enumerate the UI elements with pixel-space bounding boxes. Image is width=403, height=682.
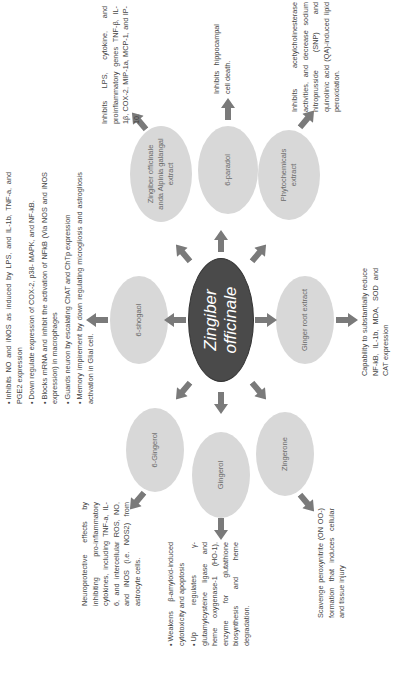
arrow-to-phytochemicals-icon bbox=[247, 240, 272, 266]
center-label-line2: officinale bbox=[221, 286, 241, 353]
effect-text-6-gingerol: Neuroprotective effects by inhibiting pr… bbox=[80, 502, 143, 606]
node-6-paradol: 6-paradol bbox=[198, 126, 258, 214]
arrow-paradol-effect-icon bbox=[221, 98, 235, 120]
arrow-to-zingerone-icon bbox=[247, 378, 272, 404]
arrow-to-ginger-root-icon bbox=[255, 313, 277, 327]
node-label: Ginger root extract bbox=[300, 289, 310, 351]
effect-text: Scavenge peroxynitrite (ON OO-) formatio… bbox=[316, 508, 346, 618]
effect-text: Inhibits LPS, cytokine, and proinflammat… bbox=[100, 6, 141, 124]
effect-text-alpinia: Inhibits LPS, cytokine, and proinflammat… bbox=[100, 6, 142, 124]
node-phytochemicals-extract: Phytochemicals extract bbox=[258, 130, 320, 220]
effect-text: Inhibits acetylcholinesterase activities… bbox=[290, 2, 341, 112]
effect-text-6-shogaol: Inhibits NO and iNOS as induced by LPS, … bbox=[4, 172, 99, 404]
effect-text-6-paradol: Inhibits hippocampal cell death. bbox=[212, 24, 233, 94]
node-label: Zingerone bbox=[280, 437, 290, 471]
shogaol-effect-item: Guards neuron by escalating ChAT and ChT… bbox=[63, 172, 74, 404]
node-label: Zingiber officinale anda Alpinia galanga… bbox=[146, 136, 176, 212]
shogaol-effect-item: Blocks mRNA and inhibit the activation o… bbox=[40, 172, 61, 404]
arrow-to-gingerol-icon bbox=[214, 392, 228, 414]
center-node-zingiber-officinale: Zingiber officinale bbox=[188, 258, 254, 382]
arrow-to-6-gingerol-icon bbox=[171, 378, 196, 404]
node-zingerone: Zingerone bbox=[256, 412, 314, 496]
node-gingerol: Gingerol bbox=[192, 432, 250, 518]
shogaol-effect-item: Memory impirement by down regulating mic… bbox=[75, 172, 96, 404]
diagram-canvas: Zingiber officinale 6-paradol Zingiber o… bbox=[0, 0, 403, 682]
arrow-to-6-paradol-icon bbox=[214, 230, 228, 252]
arrow-to-6-shogaol-icon bbox=[164, 313, 186, 327]
node-label: Gingerol bbox=[216, 461, 226, 489]
node-label: 6-shogaol bbox=[134, 304, 144, 337]
arrow-gingerol-effect-icon bbox=[214, 518, 228, 540]
shogaol-effect-item: Inhibits NO and iNOS as induced by LPS, … bbox=[4, 172, 25, 404]
effect-text-ginger-root: Capability to substantially reduce NF-kB… bbox=[360, 268, 392, 376]
shogaol-effect-item: Down regulate expression of COX-2, p38- … bbox=[27, 172, 38, 404]
node-alpinia-extract: Zingiber officinale anda Alpinia galanga… bbox=[130, 126, 192, 222]
node-6-shogaol: 6-shogaol bbox=[110, 276, 168, 364]
node-ginger-root-extract: Ginger root extract bbox=[276, 276, 334, 364]
effect-text-phytochemicals: Inhibits acetylcholinesterase activities… bbox=[290, 2, 343, 112]
effect-text: Inhibits hippocampal cell death. bbox=[212, 24, 232, 94]
effect-text: Capability to substantially reduce NF-kB… bbox=[360, 268, 390, 376]
center-label-line1: Zingiber bbox=[201, 286, 221, 353]
node-label: 6-paradol bbox=[223, 154, 233, 186]
arrow-to-alpinia-icon bbox=[171, 240, 196, 266]
effect-text-zingerone: Scavenge peroxynitrite (ON OO-) formatio… bbox=[316, 508, 348, 618]
node-6-gingerol: 6-Gingerol bbox=[126, 408, 184, 492]
effect-text: Neuroprotective effects by inhibiting pr… bbox=[80, 502, 142, 606]
arrow-ginger-root-effect-icon bbox=[336, 313, 358, 327]
gingerol-effect-item: Up regulates γ-glutamylcysteine ligase a… bbox=[189, 542, 252, 646]
gingerol-effect-item: Weakens β-amyloid-induced cytotoxicity a… bbox=[166, 542, 187, 646]
node-label: Phytochemicals extract bbox=[279, 140, 299, 210]
effect-text-gingerol: Weakens β-amyloid-induced cytotoxicity a… bbox=[166, 542, 255, 646]
node-label: 6-Gingerol bbox=[150, 432, 160, 467]
